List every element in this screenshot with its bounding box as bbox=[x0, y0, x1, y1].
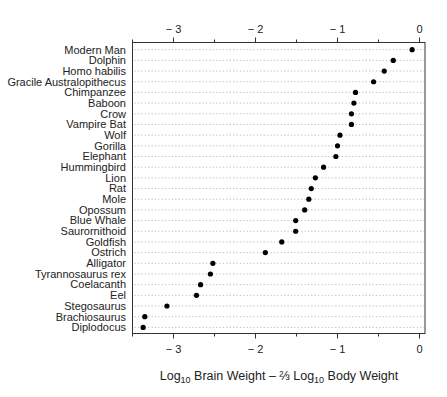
data-point bbox=[141, 325, 146, 330]
top-tick-label: 0 bbox=[416, 23, 422, 35]
data-point bbox=[333, 154, 338, 159]
data-point bbox=[210, 261, 215, 266]
data-point bbox=[351, 101, 356, 106]
data-point bbox=[293, 218, 298, 223]
top-tick-label: − 1 bbox=[330, 23, 346, 35]
data-point bbox=[306, 197, 311, 202]
bottom-axis: − 3− 2− 10 bbox=[133, 334, 423, 356]
data-point bbox=[353, 90, 358, 95]
data-point bbox=[337, 133, 342, 138]
top-axis: − 3− 2− 10 bbox=[133, 23, 423, 43]
data-point bbox=[293, 229, 298, 234]
row-labels: Modern ManDolphinHomo habilisGracile Aus… bbox=[7, 44, 127, 334]
data-point bbox=[335, 143, 340, 148]
data-point bbox=[382, 68, 387, 73]
plot-frame bbox=[133, 43, 426, 334]
x-axis-label: Log10 Brain Weight – ⅔ Log10 Body Weight bbox=[160, 369, 399, 385]
data-point bbox=[371, 79, 376, 84]
row-label: Diplodocus bbox=[72, 321, 127, 333]
data-point bbox=[410, 47, 415, 52]
data-point bbox=[309, 186, 314, 191]
data-point bbox=[279, 239, 284, 244]
data-point bbox=[391, 58, 396, 63]
data-point bbox=[164, 303, 169, 308]
row-grid-lines bbox=[135, 50, 425, 328]
data-point bbox=[208, 271, 213, 276]
dot-plot-chart: − 3− 2− 10 − 3− 2− 10 Modern ManDolphinH… bbox=[0, 0, 447, 397]
data-point bbox=[302, 207, 307, 212]
data-point bbox=[198, 282, 203, 287]
bottom-tick-label: − 1 bbox=[330, 343, 346, 355]
data-point bbox=[349, 111, 354, 116]
data-point bbox=[194, 293, 199, 298]
data-point bbox=[349, 122, 354, 127]
bottom-tick-label: − 2 bbox=[248, 343, 264, 355]
top-tick-label: − 3 bbox=[166, 23, 182, 35]
data-point bbox=[313, 175, 318, 180]
top-tick-label: − 2 bbox=[248, 23, 264, 35]
bottom-tick-label: − 3 bbox=[166, 343, 182, 355]
data-point bbox=[263, 250, 268, 255]
bottom-tick-label: 0 bbox=[416, 343, 422, 355]
data-point bbox=[142, 314, 147, 319]
data-point bbox=[321, 165, 326, 170]
